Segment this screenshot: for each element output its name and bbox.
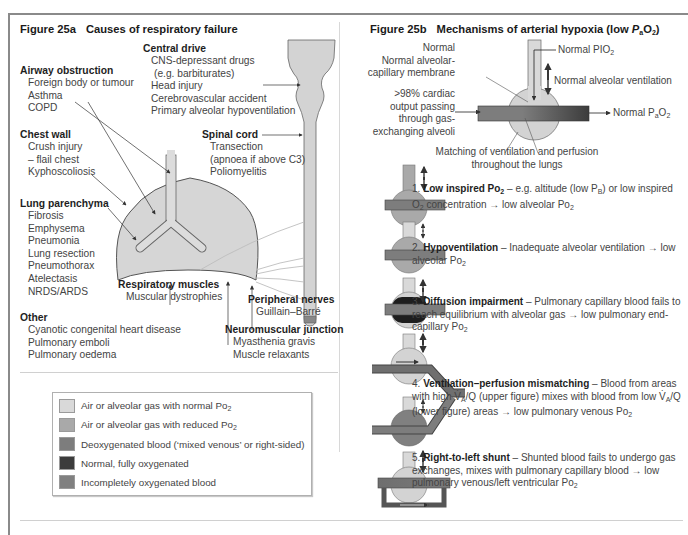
spinal-cord-block: Spinal cord Transection (apnoea if above…: [202, 128, 305, 179]
legend-swatch: [59, 456, 75, 470]
lung-parenchyma-block: Lung parenchyma Fibrosis Emphysema Pneum…: [20, 197, 109, 298]
normal-ventilation-label: Normal alveolar ventilation: [554, 75, 672, 88]
cause-item: CNS-depressant drugs: [143, 55, 295, 68]
cause-item: (e.g. barbiturates): [143, 68, 295, 81]
figure-a-number: Figure 25a: [20, 23, 76, 35]
cause-item: Muscle relaxants: [225, 349, 343, 362]
mechanism-1-text: 1. Low inspired Po2 – e.g. altitude (low…: [412, 183, 682, 214]
cause-item: (apnoea if above C3): [202, 154, 305, 167]
matching-label: Matching of ventilation and perfusion th…: [407, 146, 627, 171]
figure-b-title-text: Mechanisms of arterial hypoxia (low: [437, 23, 632, 35]
cause-item: Pulmonary emboli: [20, 337, 181, 350]
label-line: Matching of ventilation and perfusion: [407, 146, 627, 159]
figure-b-title: Figure 25bMechanisms of arterial hypoxia…: [370, 23, 660, 36]
legend-swatch: [59, 475, 75, 489]
legend-item: Normal, fully oxygenated: [59, 456, 189, 470]
other-block: Other Cyanotic congenital heart disease …: [20, 311, 181, 362]
airway-obstruction-block: Airway obstruction Foreign body or tumou…: [20, 64, 134, 115]
respiratory-muscles-block: Respiratory muscles Muscular dystrophies: [118, 278, 222, 304]
legend-item: Air or alveolar gas with reduced Po2: [59, 418, 237, 432]
cause-item: Pulmonary oedema: [20, 349, 181, 362]
label-line: >98% cardiac: [373, 88, 455, 101]
mechanism-2-text: 2. Hypoventilation – Inadequate alveolar…: [412, 242, 682, 270]
mechanism-5-text: 5. Right-to-left shunt – Shunted blood f…: [412, 452, 682, 493]
label-line: output passing: [373, 101, 455, 114]
cause-item: Primary alveolar hypoventilation: [143, 105, 295, 118]
cardiac-output-label: >98% cardiac output passing through gas-…: [373, 88, 455, 138]
cause-item: Myasthenia gravis: [225, 336, 343, 349]
cause-item: Fibrosis: [20, 210, 109, 223]
chest-wall-heading: Chest wall: [20, 128, 95, 141]
legend-swatch: [59, 437, 75, 451]
peripheral-nerves-block: Peripheral nerves Guillain–Barré: [248, 293, 334, 319]
label-line: Normal: [368, 42, 455, 55]
neuromuscular-junction-block: Neuromuscular junction Myasthenia gravis…: [225, 323, 343, 361]
airway-obstruction-heading: Airway obstruction: [20, 64, 134, 77]
cause-item: Head injury: [143, 80, 295, 93]
peripheral-nerves-heading: Peripheral nerves: [248, 293, 334, 306]
title-post: ): [656, 23, 660, 35]
label-line: Normal alveolar-: [368, 55, 455, 68]
figure-a-title-text: Causes of respiratory failure: [86, 23, 238, 35]
cause-item: Lung resection: [20, 248, 109, 261]
legend: Air or alveolar gas with normal Po2 Air …: [52, 392, 312, 496]
cause-item: Muscular dystrophies: [118, 291, 222, 304]
cause-item: Cyanotic congenital heart disease: [20, 324, 181, 337]
cause-item: Transection: [202, 141, 305, 154]
legend-item: Deoxygenated blood (‘mixed venous’ or ri…: [59, 437, 304, 451]
cause-item: Crush injury: [20, 141, 95, 154]
legend-item: Incompletely oxygenated blood: [59, 475, 216, 489]
respiratory-muscles-heading: Respiratory muscles: [118, 278, 222, 291]
legend-label: Deoxygenated blood (‘mixed venous’ or ri…: [81, 439, 304, 450]
legend-label: Incompletely oxygenated blood: [81, 477, 216, 488]
central-drive-heading: Central drive: [143, 42, 295, 55]
title-o: O: [643, 23, 652, 35]
label-line: capillary membrane: [368, 67, 455, 80]
figure-b-number: Figure 25b: [370, 23, 427, 35]
normal-membrane-label: Normal Normal alveolar- capillary membra…: [368, 42, 455, 80]
legend-label: Normal, fully oxygenated: [81, 458, 189, 469]
normal-pao2-label: Normal PaO2: [613, 107, 670, 123]
legend-item: Air or alveolar gas with normal Po2: [59, 399, 231, 413]
label-line: throughout the lungs: [407, 159, 627, 172]
cause-item: Asthma: [20, 90, 134, 103]
spinal-cord-heading: Spinal cord: [202, 128, 305, 141]
cause-item: NRDS/ARDS: [20, 286, 109, 299]
chest-wall-block: Chest wall Crush injury – flail chest Ky…: [20, 128, 95, 179]
legend-label: Air or alveolar gas with normal Po2: [81, 400, 231, 412]
label-line: through gas-: [373, 113, 455, 126]
cause-item: Poliomyelitis: [202, 166, 305, 179]
normal-pio2-label: Normal PIO2: [558, 44, 614, 60]
mechanism-4-text: 4. Ventilation–perfusion mismatching – B…: [412, 378, 682, 422]
cause-item: COPD: [20, 102, 134, 115]
cause-item: Cerebrovascular accident: [143, 93, 295, 106]
legend-swatch: [59, 418, 75, 432]
cause-item: Kyphoscoliosis: [20, 166, 95, 179]
cause-item: – flail chest: [20, 154, 95, 167]
other-heading: Other: [20, 311, 181, 324]
legend-label: Air or alveolar gas with reduced Po2: [81, 419, 237, 431]
legend-swatch: [59, 399, 75, 413]
neuromuscular-junction-heading: Neuromuscular junction: [225, 323, 343, 336]
cause-item: Pneumothorax: [20, 260, 109, 273]
mechanism-3-text: 3. Diffusion impairment – Pulmonary capi…: [412, 296, 682, 337]
lung-parenchyma-heading: Lung parenchyma: [20, 197, 109, 210]
cause-item: Pneumonia: [20, 235, 109, 248]
cause-item: Emphysema: [20, 223, 109, 236]
cause-item: Foreign body or tumour: [20, 77, 134, 90]
cause-item: Atelectasis: [20, 273, 109, 286]
figure-a-title: Figure 25aCauses of respiratory failure: [20, 23, 238, 35]
label-line: exchanging alveoli: [373, 126, 455, 139]
central-drive-block: Central drive CNS-depressant drugs (e.g.…: [143, 42, 295, 118]
cause-item: Guillain–Barré: [248, 306, 334, 319]
